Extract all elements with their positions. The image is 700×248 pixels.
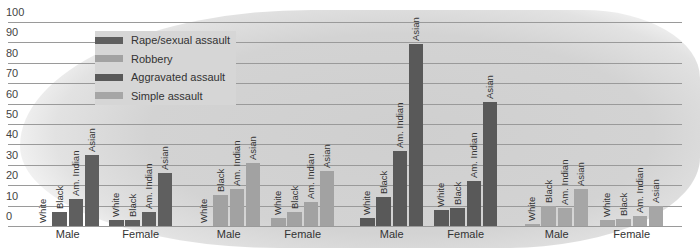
group-label-female: Female	[592, 228, 672, 240]
group-label-male: Male	[189, 228, 269, 240]
gridline	[8, 22, 682, 23]
y-tick-label: 60	[0, 88, 36, 100]
legend-item-aggravated: Aggravated assault	[95, 68, 236, 87]
y-tick-label: 70	[0, 67, 36, 79]
bar-category-label: Black	[289, 185, 300, 208]
bar-category-label: Asian	[86, 128, 97, 152]
bar	[125, 220, 140, 226]
bar	[320, 171, 335, 226]
bar	[287, 212, 302, 226]
legend-label: Simple assault	[131, 90, 203, 102]
bar-category-label: Am. Indian	[305, 153, 316, 198]
y-tick-label: 50	[0, 108, 36, 120]
group-label-male: Male	[517, 228, 597, 240]
y-tick-label: 30	[0, 149, 36, 161]
legend: Rape/sexual assault Robbery Aggravated a…	[95, 31, 236, 105]
legend-swatch	[95, 74, 123, 81]
group-label-female: Female	[101, 228, 181, 240]
gridline	[8, 226, 682, 227]
legend-swatch	[95, 55, 123, 62]
bar	[69, 199, 84, 226]
bar-category-label: Am. Indian	[634, 167, 645, 212]
y-tick-label: 40	[0, 128, 36, 140]
y-tick-label: 20	[0, 169, 36, 181]
bar-category-label: Asian	[410, 18, 421, 42]
bar	[271, 218, 286, 226]
bar	[409, 44, 424, 226]
bar-category-label: White	[37, 199, 48, 223]
bar	[450, 208, 465, 226]
legend-label: Aggravated assault	[131, 71, 225, 83]
y-tick-label: 90	[0, 26, 36, 38]
bar-category-label: Asian	[575, 163, 586, 187]
bar	[142, 212, 157, 226]
bar-category-label: Asian	[484, 75, 495, 99]
bar-category-label: Am. Indian	[231, 141, 242, 186]
group-label-female: Female	[263, 228, 343, 240]
bar	[600, 220, 615, 226]
legend-swatch	[95, 37, 123, 44]
bar	[360, 218, 375, 226]
bar-category-label: Black	[378, 171, 389, 194]
group-label-male: Male	[28, 228, 108, 240]
bar-category-label: White	[110, 193, 121, 217]
bar	[376, 197, 391, 226]
bar-category-label: White	[272, 191, 283, 215]
bar	[558, 208, 573, 226]
bar	[52, 212, 67, 226]
bar	[525, 224, 540, 226]
legend-label: Rape/sexual assault	[131, 34, 230, 46]
bar-category-label: Am. Indian	[143, 163, 154, 208]
bar-category-label: Am. Indian	[468, 133, 479, 178]
bar	[616, 219, 631, 226]
legend-swatch	[95, 92, 123, 99]
bar-category-label: White	[601, 193, 612, 217]
bar-category-label: Black	[127, 194, 138, 217]
bar-category-label: White	[435, 182, 446, 206]
bar	[85, 155, 100, 226]
bar-category-label: White	[361, 191, 372, 215]
bar-category-label: Am. Indian	[70, 151, 81, 196]
group-label-male: Male	[352, 228, 432, 240]
bar	[246, 163, 261, 226]
bar	[541, 206, 556, 226]
bar-category-label: Asian	[321, 144, 332, 168]
y-tick-label: 80	[0, 47, 36, 59]
legend-item-rape: Rape/sexual assault	[95, 31, 236, 50]
bar-category-label: Asian	[247, 136, 258, 160]
gridline	[8, 144, 682, 145]
legend-item-robbery: Robbery	[95, 50, 236, 69]
bar	[158, 173, 173, 226]
group-label-female: Female	[426, 228, 506, 240]
bar-category-label: Black	[54, 185, 65, 208]
bar	[574, 189, 589, 226]
bar-category-label: White	[198, 199, 209, 223]
bar-category-label: Asian	[650, 179, 661, 203]
bar	[213, 195, 228, 226]
y-tick-label: 100	[0, 6, 36, 18]
bar	[649, 206, 664, 226]
bar	[393, 151, 408, 226]
bar	[434, 210, 449, 226]
y-tick-label: 0	[0, 210, 36, 222]
y-tick-label: 10	[0, 190, 36, 202]
bar-category-label: Asian	[159, 146, 170, 170]
bar-category-label: Black	[543, 179, 554, 202]
bar	[230, 189, 245, 226]
bar	[109, 220, 124, 226]
legend-label: Robbery	[131, 53, 173, 65]
bar	[304, 202, 319, 226]
bar-category-label: Black	[215, 169, 226, 192]
bar	[467, 181, 482, 226]
bar	[633, 216, 648, 226]
legend-item-simple: Simple assault	[95, 87, 236, 106]
bar-category-label: White	[526, 197, 537, 221]
bar-category-label: Am. Indian	[394, 102, 405, 147]
bar-category-label: Black	[618, 193, 629, 216]
bar	[483, 102, 498, 226]
bar-category-label: Black	[452, 181, 463, 204]
bar-category-label: Am. Indian	[559, 159, 570, 204]
gridline	[8, 124, 682, 125]
